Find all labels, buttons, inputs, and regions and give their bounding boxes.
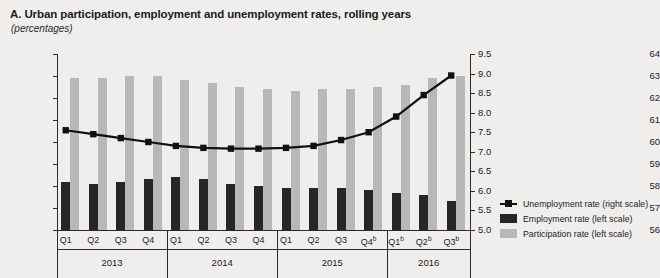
legend-swatch-icon <box>500 199 517 208</box>
right-axis-tick-label: 8.0 <box>478 108 491 118</box>
right-axis-tick-label: 9.0 <box>478 69 491 79</box>
legend-item[interactable]: Participation rate (left scale) <box>500 226 648 241</box>
chart-subtitle: (percentages) <box>11 23 73 34</box>
year-label: 2016 <box>418 257 439 268</box>
x-axis-tick-label: Q2 <box>197 235 209 245</box>
chart-figure: A. Urban participation, employment and u… <box>0 0 660 278</box>
right-axis-tick <box>471 171 475 172</box>
right-axis-tick-label: 6.5 <box>478 166 491 176</box>
unemployment-marker <box>448 72 454 78</box>
legend-swatch-icon <box>500 214 517 223</box>
year-label: 2013 <box>101 257 122 268</box>
year-label: 2015 <box>322 257 343 268</box>
chart-title: A. Urban participation, employment and u… <box>10 8 411 20</box>
unemployment-marker <box>200 145 206 151</box>
legend-label: Employment rate (left scale) <box>523 214 633 224</box>
left-axis-tick-label: 60 <box>611 137 660 147</box>
x-axis-tick-label: Q1 <box>170 235 182 245</box>
legend-label: Participation rate (left scale) <box>523 229 632 239</box>
x-axis-tick-label: Q2b <box>416 235 432 247</box>
unemployment-marker <box>228 145 234 151</box>
right-axis-line <box>470 54 471 231</box>
x-axis-tick-label: Q1 <box>60 235 72 245</box>
right-axis-tick-label: 7.5 <box>478 127 491 137</box>
unemployment-marker <box>421 92 427 98</box>
unemployment-marker <box>173 143 179 149</box>
x-axis-tick-labels: Q1Q2Q3Q4Q1Q2Q3Q4Q1Q2Q3Q4bQ1bQ2bQ3b <box>57 233 471 251</box>
right-axis-tick-label: 7.0 <box>478 147 491 157</box>
unemployment-marker <box>90 131 96 137</box>
right-axis-tick-label: 8.5 <box>478 88 491 98</box>
x-axis-tick-label: Q1 <box>280 235 292 245</box>
right-axis-tick-label: 6.0 <box>478 186 491 196</box>
unemployment-marker <box>118 135 124 141</box>
right-axis-tick-label: 5.0 <box>478 225 491 235</box>
x-axis-tick-label: Q4 <box>252 235 264 245</box>
unemployment-marker <box>283 145 289 151</box>
x-axis-tick-label: Q4b <box>361 235 377 247</box>
right-axis-tick <box>471 113 475 114</box>
right-axis-tick <box>471 191 475 192</box>
unemployment-marker <box>145 139 151 145</box>
legend-item[interactable]: Employment rate (left scale) <box>500 211 648 226</box>
right-axis-tick <box>471 93 475 94</box>
x-axis-tick-label: Q2 <box>87 235 99 245</box>
x-axis-tick-label: Q2 <box>308 235 320 245</box>
unemployment-marker <box>365 129 371 135</box>
x-axis-tick-label: Q3 <box>335 235 347 245</box>
unemployment-marker <box>393 113 399 119</box>
unemployment-marker <box>255 145 261 151</box>
plot-area <box>57 54 470 230</box>
right-axis-tick-label: 5.5 <box>478 205 491 215</box>
left-axis-tick-label: 62 <box>611 93 660 103</box>
chart-legend: Unemployment rate (right scale)Employmen… <box>500 196 648 241</box>
right-axis-tick <box>471 230 475 231</box>
unemployment-marker <box>310 143 316 149</box>
right-axis-tick-label: 9.5 <box>478 49 491 59</box>
right-axis-tick <box>471 152 475 153</box>
right-axis-tick <box>471 74 475 75</box>
right-axis-tick <box>471 54 475 55</box>
left-axis-tick-label: 58 <box>611 181 660 191</box>
right-axis-tick <box>471 210 475 211</box>
x-axis-tick-label: Q3 <box>115 235 127 245</box>
year-label: 2014 <box>212 257 233 268</box>
x-axis-tick-label: Q3 <box>225 235 237 245</box>
left-axis-tick-label: 64 <box>611 49 660 59</box>
unemployment-line-layer <box>57 54 470 230</box>
unemployment-marker <box>338 137 344 143</box>
x-axis-tick-label: Q3b <box>443 235 459 247</box>
legend-swatch-icon <box>500 229 517 238</box>
unemployment-marker <box>63 127 69 133</box>
legend-label: Unemployment rate (right scale) <box>523 199 648 209</box>
left-axis-tick-label: 61 <box>611 115 660 125</box>
x-axis-tick-label: Q4 <box>142 235 154 245</box>
left-axis-tick-label: 59 <box>611 159 660 169</box>
x-axis-tick-label: Q1b <box>388 235 404 247</box>
left-axis-tick-label: 63 <box>611 71 660 81</box>
legend-item[interactable]: Unemployment rate (right scale) <box>500 196 648 211</box>
right-axis-tick <box>471 132 475 133</box>
